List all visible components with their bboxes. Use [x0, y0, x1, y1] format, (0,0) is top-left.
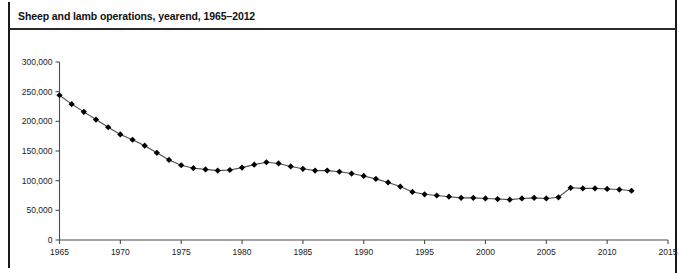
data-point-marker — [227, 167, 233, 173]
data-point-marker — [81, 109, 87, 115]
data-point-marker — [312, 167, 318, 173]
data-point-marker — [482, 195, 488, 201]
data-point-marker — [373, 176, 379, 182]
data-point-marker — [93, 116, 99, 122]
data-point-marker — [190, 165, 196, 171]
data-point-marker — [580, 185, 586, 191]
data-point-marker — [263, 159, 269, 165]
axis-layer — [56, 62, 669, 244]
data-series-layer — [56, 92, 634, 203]
x-axis-tick-label: 1965 — [50, 247, 69, 257]
data-point-marker — [385, 179, 391, 185]
data-point-marker — [202, 166, 208, 172]
data-point-marker — [105, 124, 111, 130]
data-point-marker — [519, 195, 525, 201]
data-point-marker — [178, 162, 184, 168]
data-point-marker — [361, 173, 367, 179]
y-axis-tick-label: 150,000 — [0, 146, 53, 156]
data-point-marker — [275, 160, 281, 166]
data-point-marker — [154, 150, 160, 156]
y-axis-tick-label: 200,000 — [0, 116, 53, 126]
x-axis-tick-label: 1975 — [172, 247, 191, 257]
figure-caption — [40, 265, 640, 273]
data-point-marker — [616, 186, 622, 192]
data-point-marker — [495, 196, 501, 202]
y-axis-tick-label: 50,000 — [0, 205, 53, 215]
data-point-marker — [422, 191, 428, 197]
x-axis-tick-label: 2005 — [537, 247, 556, 257]
data-point-marker — [543, 195, 549, 201]
data-point-marker — [166, 157, 172, 163]
x-axis-tick-label: 2010 — [598, 247, 617, 257]
y-axis-tick-label: 100,000 — [0, 176, 53, 186]
data-point-marker — [117, 131, 123, 137]
y-axis-tick-label: 250,000 — [0, 87, 53, 97]
data-point-marker — [251, 162, 257, 168]
data-point-marker — [507, 197, 513, 203]
line-chart-plot — [0, 0, 692, 273]
data-point-marker — [470, 195, 476, 201]
x-axis-tick-label: 1980 — [233, 247, 252, 257]
data-point-marker — [434, 192, 440, 198]
data-point-marker — [142, 143, 148, 149]
data-point-marker — [300, 166, 306, 172]
x-axis-tick-label: 1995 — [415, 247, 434, 257]
data-point-marker — [409, 189, 415, 195]
data-point-marker — [288, 163, 294, 169]
data-point-marker — [129, 137, 135, 143]
data-point-marker — [592, 185, 598, 191]
data-point-marker — [239, 165, 245, 171]
data-point-marker — [628, 188, 634, 194]
data-point-marker — [604, 186, 610, 192]
data-point-marker — [458, 195, 464, 201]
x-axis-tick-label: 2000 — [476, 247, 495, 257]
data-point-marker — [348, 170, 354, 176]
x-axis-tick-label: 1990 — [354, 247, 373, 257]
data-point-marker — [397, 184, 403, 190]
data-point-marker — [215, 167, 221, 173]
y-axis-tick-label: 0 — [0, 235, 53, 245]
y-axis-tick-label: 300,000 — [0, 57, 53, 67]
data-point-marker — [531, 195, 537, 201]
x-axis-tick-label: 2015 — [659, 247, 678, 257]
x-axis-tick-label: 1985 — [293, 247, 312, 257]
x-axis-tick-label: 1970 — [111, 247, 130, 257]
data-point-marker — [324, 167, 330, 173]
data-point-marker — [336, 169, 342, 175]
figure-container: Sheep and lamb operations, yearend, 1965… — [0, 0, 692, 273]
data-point-marker — [446, 194, 452, 200]
